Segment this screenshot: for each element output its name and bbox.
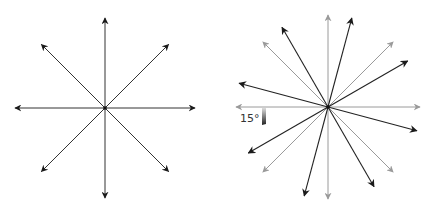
angle-arc-marker — [262, 108, 266, 125]
arrow — [41, 44, 105, 108]
black-arrow — [328, 107, 374, 187]
black-arrow — [282, 27, 328, 107]
arrow — [105, 44, 169, 108]
arrow — [105, 108, 169, 172]
center-dot — [103, 106, 107, 110]
black-arrow — [328, 61, 408, 107]
angle-label: 15° — [240, 112, 260, 125]
black-arrow — [328, 107, 417, 131]
center-dot — [326, 105, 330, 109]
black-arrow — [304, 107, 328, 196]
black-arrow — [239, 83, 328, 107]
black-arrow — [328, 18, 352, 107]
diagram-canvas: 15° — [0, 0, 432, 206]
black-arrow — [248, 107, 328, 153]
angle-annotation: 15° — [240, 108, 266, 125]
arrow — [41, 108, 105, 172]
